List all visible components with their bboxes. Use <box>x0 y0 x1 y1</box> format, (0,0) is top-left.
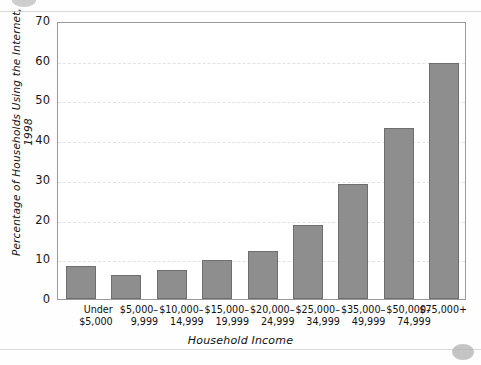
x-axis-title: Household Income <box>0 334 481 347</box>
bar <box>429 63 459 299</box>
top-divider <box>0 11 481 12</box>
y-axis-title: Percentage of Households Using the Inter… <box>10 2 34 262</box>
bar <box>384 128 414 299</box>
bar <box>66 266 96 299</box>
bar <box>248 251 278 299</box>
plot-area <box>57 22 466 300</box>
x-tick-label: $75,000+ <box>410 304 476 316</box>
bar <box>202 260 232 299</box>
bar-series <box>58 23 465 299</box>
bar <box>338 184 368 299</box>
bar <box>157 270 187 299</box>
bar <box>111 275 141 299</box>
y-tick-label: 0 <box>8 292 50 306</box>
bar <box>293 225 323 299</box>
figure-page: 010203040506070 Percentage of Households… <box>0 0 481 365</box>
bottom-divider <box>0 349 481 350</box>
